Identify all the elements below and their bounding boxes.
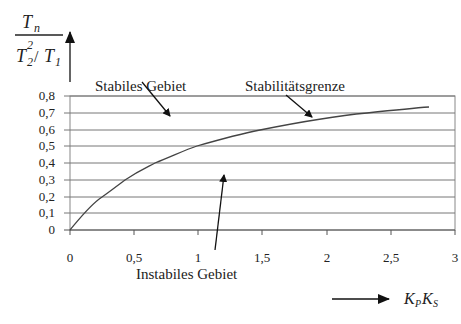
svg-text:0,3: 0,3 (39, 172, 55, 187)
svg-text:2,5: 2,5 (383, 250, 399, 265)
svg-text:0,6: 0,6 (39, 122, 56, 137)
svg-text:3: 3 (452, 250, 459, 265)
y-axis-label: T n T 2 2 / T 1 (15, 12, 63, 69)
stability-boundary-arrow (286, 95, 312, 117)
svg-text:n: n (34, 21, 40, 35)
x-tick-labels: 0 0,5 1 1,5 2 2,5 3 (67, 250, 459, 265)
svg-text:1: 1 (55, 55, 61, 69)
y-tick-labels: 0,8 0,7 0,6 0,5 0,4 0,3 0,2 0,1 0 (39, 88, 56, 237)
gridlines (64, 96, 455, 230)
svg-text:P: P (414, 298, 421, 309)
svg-text:0,4: 0,4 (39, 155, 56, 170)
stability-boundary-label: Stabilitätsgrenze (245, 78, 345, 94)
svg-text:0,5: 0,5 (126, 250, 142, 265)
svg-text:0: 0 (49, 222, 56, 237)
svg-text:2: 2 (27, 38, 33, 52)
svg-text:T: T (22, 12, 34, 32)
svg-text:0,1: 0,1 (39, 205, 55, 220)
unstable-region-label: Instabiles Gebiet (136, 266, 238, 282)
svg-text:1: 1 (195, 250, 202, 265)
svg-text:0,7: 0,7 (39, 105, 56, 120)
x-ticks (70, 230, 455, 235)
svg-text:/: / (34, 48, 39, 65)
svg-text:S: S (433, 298, 438, 309)
svg-text:0: 0 (67, 250, 74, 265)
stable-region-label: Stabiles Gebiet (95, 78, 187, 94)
svg-text:0,5: 0,5 (39, 138, 55, 153)
stability-boundary-curve (70, 107, 429, 230)
svg-text:0,8: 0,8 (39, 88, 55, 103)
svg-text:2: 2 (324, 250, 331, 265)
stability-chart: T n T 2 2 / T 1 0,8 0,7 0,6 (0, 0, 461, 324)
svg-text:0,2: 0,2 (39, 189, 55, 204)
x-axis-label: K P K S (403, 290, 438, 309)
svg-text:2: 2 (27, 55, 33, 69)
svg-text:1,5: 1,5 (254, 250, 270, 265)
